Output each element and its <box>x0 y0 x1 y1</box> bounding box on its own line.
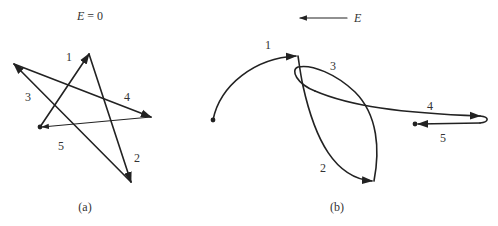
label-4-a: 4 <box>124 90 130 104</box>
label-2-a: 2 <box>134 151 140 165</box>
segment-1-b <box>213 56 296 120</box>
segment-2-a <box>89 54 131 182</box>
label-4-b: 4 <box>427 99 433 113</box>
caption-b: (b) <box>330 200 344 214</box>
segment-2-b <box>298 56 372 181</box>
caption-a: (a) <box>78 200 91 214</box>
label-5-a: 5 <box>58 139 64 153</box>
label-3-a: 3 <box>25 90 31 104</box>
segment-4-b <box>315 91 480 116</box>
label-1-b: 1 <box>265 38 271 52</box>
field-label: E <box>353 11 362 25</box>
segment-4-a <box>14 64 151 117</box>
label-5-b: 5 <box>440 131 446 145</box>
panel-b: E 1 2 3 4 5 (b) <box>211 11 488 214</box>
panel-a-title: E = 0 <box>76 9 103 23</box>
label-3-b: 3 <box>330 59 336 73</box>
segment-5-b <box>418 123 480 124</box>
segment-3-a <box>14 64 131 182</box>
electron-trajectory-diagram: E = 0 1 2 3 4 5 (a) E 1 <box>0 0 498 226</box>
panel-a: E = 0 1 2 3 4 5 (a) <box>14 9 151 214</box>
label-2-b: 2 <box>320 161 326 175</box>
segment-4-b-turn <box>480 116 487 123</box>
segment-5-a <box>42 117 151 127</box>
label-1-a: 1 <box>66 50 72 64</box>
segment-3-b <box>295 66 377 181</box>
end-dot-b <box>413 122 418 127</box>
